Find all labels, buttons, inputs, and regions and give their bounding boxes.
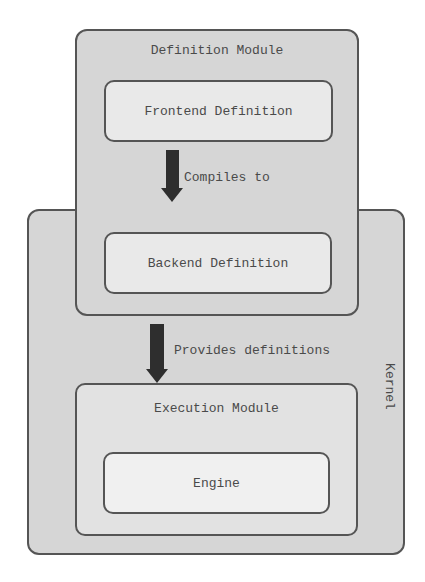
definition-module-title: Definition Module <box>77 43 357 58</box>
compiles-to-label: Compiles to <box>184 170 270 185</box>
provides-definitions-arrow <box>146 324 168 384</box>
arrow-shaft <box>150 324 164 370</box>
execution-module-title: Execution Module <box>77 401 356 416</box>
backend-definition-box: Backend Definition <box>104 232 332 294</box>
backend-definition-label: Backend Definition <box>106 256 330 271</box>
kernel-label: Kernel <box>382 357 397 417</box>
arrow-down-icon <box>161 188 183 202</box>
frontend-definition-label: Frontend Definition <box>106 104 331 119</box>
compiles-to-arrow <box>161 150 183 202</box>
engine-label: Engine <box>105 476 328 491</box>
arrow-down-icon <box>146 369 168 383</box>
frontend-definition-box: Frontend Definition <box>104 80 333 142</box>
engine-box: Engine <box>103 452 330 514</box>
arrow-shaft <box>166 150 179 189</box>
provides-definitions-label: Provides definitions <box>174 343 330 358</box>
